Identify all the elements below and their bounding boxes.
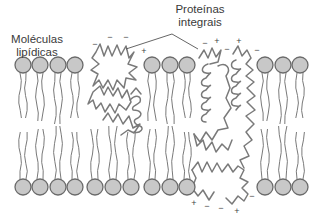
fatty-acid-tail — [148, 73, 151, 121]
phospholipid-head — [144, 179, 160, 195]
fatty-acid-tail — [172, 126, 175, 179]
fatty-acid-tail — [285, 126, 288, 179]
fatty-acid-tail — [54, 126, 57, 179]
negative-charge-sign: − — [123, 32, 128, 42]
fatty-acid-tail — [25, 73, 28, 118]
negative-charge-sign: − — [254, 45, 259, 55]
phospholipid-head — [123, 179, 139, 195]
lipid-label-line2: lipídicas — [2, 46, 72, 59]
fatty-acid-tail — [133, 132, 136, 179]
fatty-acid-tail — [60, 126, 63, 179]
negative-charge-sign: − — [218, 203, 223, 213]
fatty-acid-tail — [148, 129, 151, 179]
fatty-acid-tail — [71, 73, 74, 118]
phospholipid-head — [292, 179, 308, 195]
fatty-acid-tail — [42, 129, 45, 179]
phospholipid-head — [292, 57, 308, 73]
fatty-acid-tail — [109, 126, 112, 179]
fatty-acid-tail — [172, 73, 175, 124]
negative-charge-sign: − — [249, 191, 254, 201]
fatty-acid-tail — [285, 73, 288, 124]
positive-charge-sign: + — [214, 36, 219, 46]
fatty-acid-tail — [36, 129, 39, 179]
fatty-acid-tail — [267, 129, 270, 179]
fatty-acid-tail — [279, 126, 282, 179]
integral-protein-1 — [88, 44, 142, 135]
phospholipid-head — [15, 57, 31, 73]
integral-protein-2 — [192, 48, 248, 204]
phospholipid-head — [15, 179, 31, 195]
phospholipid-head — [179, 179, 195, 195]
fatty-acid-tail — [296, 73, 299, 118]
phospholipid-head — [162, 57, 178, 73]
negative-charge-sign: − — [202, 38, 207, 48]
fatty-acid-tail — [267, 73, 270, 121]
positive-charge-sign: + — [236, 36, 241, 46]
positive-charge-sign: + — [234, 206, 239, 216]
phospholipid-head — [32, 179, 48, 195]
fatty-acid-tail — [19, 132, 22, 179]
fatty-acid-tail — [127, 132, 130, 179]
negative-charge-sign: − — [92, 39, 97, 49]
negative-charge-sign: − — [224, 44, 229, 54]
phospholipid-head — [275, 179, 291, 195]
fatty-acid-tail — [54, 73, 57, 124]
fatty-acid-tail — [189, 132, 192, 179]
fatty-acid-tail — [261, 73, 264, 121]
phospholipid-head — [32, 57, 48, 73]
fatty-acid-tail — [71, 132, 74, 179]
phospholipid-head — [179, 57, 195, 73]
fatty-acid-tail — [115, 126, 118, 179]
fatty-acid-tail — [42, 73, 45, 121]
fatty-acid-tail — [261, 129, 264, 179]
fatty-acid-tail — [296, 132, 299, 179]
fatty-acid-tail — [154, 129, 157, 179]
lipid-tails — [19, 73, 305, 179]
phospholipid-head — [50, 57, 66, 73]
lipid-heads-bottom — [15, 179, 308, 195]
phospholipid-head — [67, 179, 83, 195]
positive-charge-sign: + — [191, 198, 196, 208]
protein-leader-line — [126, 34, 198, 49]
fatty-acid-tail — [77, 73, 80, 118]
lipid-heads-top — [15, 57, 308, 73]
protein-label-line1: Proteínas — [168, 3, 232, 16]
fatty-acid-tail — [183, 132, 186, 179]
fatty-acid-tail — [77, 132, 80, 179]
fatty-acid-tail — [60, 73, 63, 124]
fatty-acid-tail — [97, 129, 100, 179]
membrane-diagram: −−−+−+−+−+−−+− Moléculas lipídicas Prote… — [0, 0, 313, 223]
lipid-molecules-label: Moléculas lipídicas — [2, 33, 72, 59]
fatty-acid-tail — [19, 73, 22, 118]
fatty-acid-tail — [91, 129, 94, 179]
phospholipid-head — [144, 57, 160, 73]
fatty-acid-tail — [166, 73, 169, 124]
integral-proteins-label: Proteínas integrais — [168, 3, 232, 29]
phospholipid-head — [257, 57, 273, 73]
phospholipid-head — [162, 179, 178, 195]
phospholipid-head — [275, 57, 291, 73]
fatty-acid-tail — [166, 126, 169, 179]
protein-label-line2: integrais — [168, 16, 232, 29]
fatty-acid-tail — [25, 132, 28, 179]
fatty-acid-tail — [302, 132, 305, 179]
positive-charge-sign: + — [141, 46, 146, 56]
phospholipid-head — [257, 179, 273, 195]
negative-charge-sign: − — [204, 201, 209, 211]
phospholipid-head — [105, 179, 121, 195]
phospholipid-head — [87, 179, 103, 195]
fatty-acid-tail — [154, 73, 157, 121]
fatty-acid-tail — [302, 73, 305, 118]
fatty-acid-tail — [189, 73, 192, 118]
integral-protein-3 — [232, 46, 256, 168]
fatty-acid-tail — [36, 73, 39, 121]
fatty-acid-tail — [183, 73, 186, 118]
fatty-acid-tail — [279, 73, 282, 124]
phospholipid-head — [67, 57, 83, 73]
phospholipid-head — [50, 179, 66, 195]
negative-charge-sign: − — [107, 32, 112, 42]
lipid-label-line1: Moléculas — [2, 33, 72, 46]
